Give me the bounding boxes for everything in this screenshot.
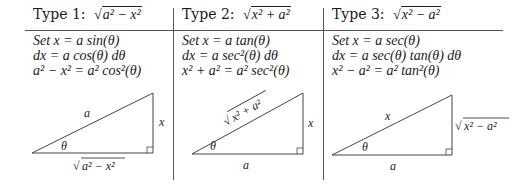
triangle-2-adjacent-label: a [243,158,249,172]
triangle-2: √ x² + a² x θ a [192,90,314,172]
triangle-3: x θ a √ x² − a² [332,95,509,173]
triangle-2-hypotenuse-label: √ x² + a² [220,90,273,128]
svg-text:x² + a²: x² + a² [228,96,265,125]
svg-text:a² − x²: a² − x² [82,159,115,173]
svg-text:x² − a²: x² − a² [463,119,497,133]
triangle-1: a x θ √ a² − x² [32,93,165,173]
svg-text:√: √ [455,119,462,133]
triangle-3-hypotenuse-label: x [384,109,391,123]
triangle-2-opposite-label: x [307,116,314,130]
triangle-1-angle-label: θ [61,139,67,153]
triangle-1-hypotenuse-label: a [84,106,90,120]
triangle-3-opposite-label: √ x² − a² [455,118,509,133]
triangle-diagrams: a x θ √ a² − x² √ x² + a² x θ a [0,0,528,186]
triangle-3-adjacent-label: a [390,159,396,173]
triangle-3-angle-label: θ [362,140,368,154]
triangle-1-opposite-label: x [158,115,165,129]
triangle-1-adjacent-label: √ a² − x² [73,158,125,173]
triangle-2-angle-label: θ [210,139,216,153]
svg-text:√: √ [73,159,80,173]
